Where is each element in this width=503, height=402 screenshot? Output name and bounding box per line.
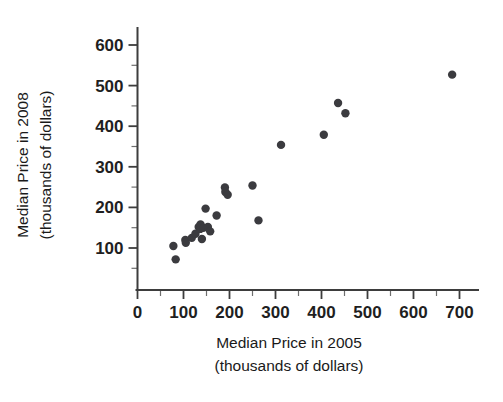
x-tick-label: 200 [215,303,243,322]
y-tick-label: 400 [95,117,123,136]
scatter-plot-figure: 100200300400500600 010020030040050060070… [0,0,503,402]
data-point [341,109,349,117]
data-point [201,204,209,212]
x-tick-label: 400 [307,303,335,322]
x-tick-label: 600 [399,303,427,322]
x-tick-label: 100 [169,303,197,322]
data-point [206,227,214,235]
data-point [320,131,328,139]
data-point [171,255,179,263]
y-tick-label: 100 [95,239,123,258]
data-point [254,216,262,224]
x-tick-label: 700 [445,303,473,322]
y-tick-label: 600 [95,36,123,55]
plot-canvas: 100200300400500600 010020030040050060070… [0,0,503,402]
data-point-series [169,70,456,263]
x-axis-tick-labels: 0100200300400500600700 [133,303,474,322]
y-axis-title-line2: (thousands of dollars) [37,90,54,239]
data-point [169,242,177,250]
x-tick-label: 0 [133,303,142,322]
x-axis-title-line1: Median Price in 2005 [216,334,362,351]
data-point [248,181,256,189]
y-axis-tick-labels: 100200300400500600 [95,36,123,258]
data-point [223,191,231,199]
data-point [198,235,206,243]
data-point [448,70,456,78]
x-axis-title-line2: (thousands of dollars) [214,357,363,374]
y-tick-label: 300 [95,158,123,177]
y-axis-title-line1: Median Price in 2008 [14,92,31,238]
data-point [334,99,342,107]
data-point [277,141,285,149]
y-tick-label: 500 [95,77,123,96]
x-tick-label: 300 [261,303,289,322]
data-point [212,211,220,219]
y-tick-label: 200 [95,198,123,217]
x-tick-label: 500 [353,303,381,322]
